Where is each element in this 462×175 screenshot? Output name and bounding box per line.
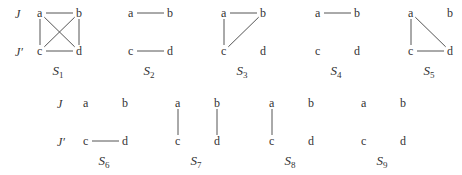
node-a: a (315, 6, 321, 20)
node-d: d (76, 44, 82, 58)
node-c: c (221, 44, 226, 58)
graph-caption: S6 (99, 153, 111, 170)
row-label-jprime-top: J′ (15, 45, 23, 59)
node-a: a (221, 6, 227, 20)
node-c: c (269, 134, 274, 148)
node-b: b (167, 6, 173, 20)
node-c: c (408, 44, 413, 58)
node-d: d (167, 44, 173, 58)
node-b: b (260, 6, 266, 20)
node-d: d (308, 134, 314, 148)
node-c: c (128, 44, 133, 58)
node-d: d (400, 134, 406, 148)
row-label-jprime-bottom: J′ (57, 135, 65, 149)
graph-s9: abcdS9 (361, 96, 406, 170)
graph-s7: abcdS7 (175, 96, 220, 170)
node-d: d (447, 44, 453, 58)
graph-caption: S5 (424, 63, 436, 80)
edge-b-c (228, 17, 258, 47)
node-b: b (400, 96, 406, 110)
graph-caption: S9 (377, 153, 389, 170)
graph-caption: S1 (53, 63, 64, 80)
graph-caption: S7 (191, 153, 203, 170)
subgraph-diagram: J J′ J J′ abcdS1abcdS2abcdS3abcdS4abcdS5… (0, 0, 462, 175)
node-c: c (37, 44, 42, 58)
node-a: a (269, 96, 275, 110)
node-a: a (408, 6, 414, 20)
node-a: a (37, 6, 43, 20)
node-b: b (122, 96, 128, 110)
node-a: a (83, 96, 89, 110)
graph-caption: S4 (331, 63, 343, 80)
graph-s4: abcdS4 (315, 6, 360, 80)
graph-s8: abcdS8 (269, 96, 314, 170)
node-b: b (447, 6, 453, 20)
graph-s1: abcdS1 (37, 6, 82, 80)
node-a: a (175, 96, 181, 110)
node-c: c (175, 134, 180, 148)
row-label-j-bottom: J (57, 97, 63, 111)
graph-s3: abcdS3 (221, 6, 266, 80)
graph-caption: S2 (144, 63, 155, 80)
graph-s2: abcdS2 (128, 6, 173, 80)
node-d: d (260, 44, 266, 58)
node-c: c (361, 134, 366, 148)
node-b: b (76, 6, 82, 20)
node-b: b (214, 96, 220, 110)
node-b: b (308, 96, 314, 110)
graph-s5: abcdS5 (408, 6, 453, 80)
edge-a-d (415, 17, 445, 47)
node-d: d (122, 134, 128, 148)
node-c: c (315, 44, 320, 58)
graph-caption: S8 (285, 153, 297, 170)
node-b: b (354, 6, 360, 20)
node-d: d (214, 134, 220, 148)
node-a: a (361, 96, 367, 110)
graph-caption: S3 (237, 63, 249, 80)
row-label-j-top: J (15, 7, 21, 21)
node-c: c (83, 134, 88, 148)
graph-s6: abcdS6 (83, 96, 128, 170)
node-d: d (354, 44, 360, 58)
node-a: a (128, 6, 134, 20)
